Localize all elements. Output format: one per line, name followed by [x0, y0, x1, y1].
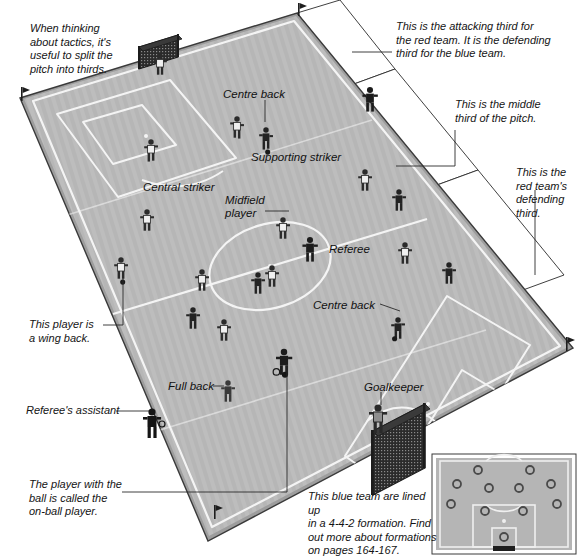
annotation-thirds-tip: When thinking about tactics, it's useful… — [30, 22, 160, 76]
annotation-defending-third: This is the red team's defending third. — [516, 166, 580, 220]
annotation-middle-third: This is the middle third of the pitch. — [455, 98, 575, 125]
annotation-on-ball-player: The player with the ball is called the o… — [29, 478, 159, 519]
position-label-central-striker: Central striker — [143, 181, 215, 194]
position-label-midfield-player: Midfield player — [225, 194, 265, 220]
position-label-centre-back-bottom: Centre back — [313, 299, 375, 312]
position-label-centre-back-top: Centre back — [223, 88, 285, 101]
formation-inset — [432, 454, 576, 554]
annotation-attacking-third: This is the attacking third for the red … — [396, 20, 576, 61]
annotation-referees-assistant: Referee's assistant — [26, 404, 146, 418]
position-label-full-back: Full back — [168, 380, 214, 393]
annotation-wing-back: This player is a wing back. — [29, 318, 139, 345]
position-label-referee: Referee — [329, 243, 370, 256]
pitch-scene — [0, 0, 580, 558]
position-label-goalkeeper: Goalkeeper — [364, 381, 423, 394]
position-label-supporting-striker: Supporting striker — [251, 151, 341, 164]
annotation-formation-note: This blue team are lined up in a 4-4-2 f… — [308, 490, 440, 558]
pitch-illustration: When thinking about tactics, it's useful… — [0, 0, 580, 558]
